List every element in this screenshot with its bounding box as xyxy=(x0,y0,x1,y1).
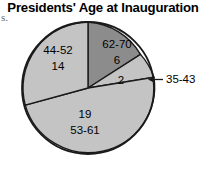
slice-label-44-52: 44-52 xyxy=(29,44,87,56)
slice-value-53-61: 19 xyxy=(62,108,108,120)
slice-value-62-70: 6 xyxy=(94,54,140,66)
slice-label-53-61: 53-61 xyxy=(57,124,113,136)
slice-value-35-43: 2 xyxy=(108,74,134,86)
slice-label-35-43: 35-43 xyxy=(166,73,195,85)
pie-graphic xyxy=(0,0,206,173)
pie-chart-figure: Presidents' Age at Inauguration s. 44-52… xyxy=(0,0,206,173)
slice-value-44-52: 14 xyxy=(29,60,87,72)
slice-label-62-70: 62-70 xyxy=(94,38,140,50)
